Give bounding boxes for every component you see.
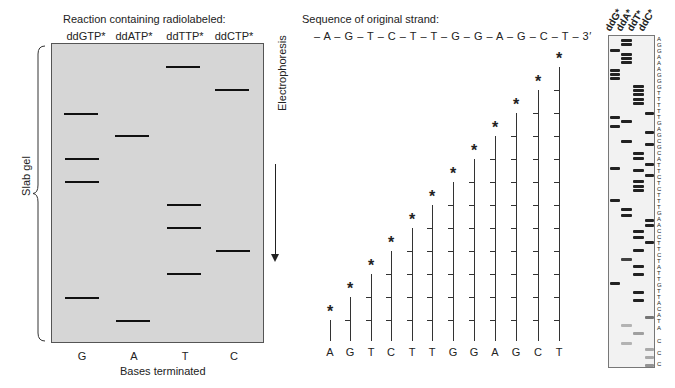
fragment-line-8 xyxy=(474,159,475,341)
fragment-line-4 xyxy=(391,251,392,341)
fragment-line-3 xyxy=(371,274,372,341)
label-star-icon: * xyxy=(471,143,477,159)
fragment-line-10 xyxy=(516,113,517,341)
fragment-label-7: G xyxy=(449,346,458,358)
fragment-label-6: T xyxy=(429,346,436,358)
fragment-line-11 xyxy=(538,90,539,341)
fragment-label-9: A xyxy=(491,346,498,358)
fragment-label-8: G xyxy=(470,346,479,358)
fragment-label-3: T xyxy=(368,346,375,358)
fragment-label-10: G xyxy=(512,346,521,358)
fragment-line-12 xyxy=(559,67,560,341)
fragment-label-4: C xyxy=(387,346,395,358)
fragment-label-5: T xyxy=(409,346,416,358)
autoradiograph xyxy=(608,35,655,368)
fragment-line-2 xyxy=(350,297,351,341)
fragment-line-7 xyxy=(453,182,454,341)
label-star-icon: * xyxy=(368,258,374,274)
label-star-icon: * xyxy=(450,166,456,182)
label-star-icon: * xyxy=(327,304,333,320)
fragment-staircase: * A * G * T * C * T * T * G * G xyxy=(0,0,675,388)
label-star-icon: * xyxy=(409,212,415,228)
label-star-icon: * xyxy=(429,189,435,205)
fragment-line-9 xyxy=(495,136,496,341)
fragment-label-2: G xyxy=(346,346,355,358)
fragment-line-6 xyxy=(432,205,433,341)
label-star-icon: * xyxy=(492,120,498,136)
fragment-line-1 xyxy=(330,320,331,341)
label-star-icon: * xyxy=(535,74,541,90)
fragment-label-11: C xyxy=(534,346,542,358)
label-star-icon: * xyxy=(347,281,353,297)
label-star-icon: * xyxy=(513,97,519,113)
fragment-label-12: T xyxy=(556,346,563,358)
fragment-line-5 xyxy=(412,228,413,341)
fragment-label-1: A xyxy=(326,346,333,358)
label-star-icon: * xyxy=(556,51,562,67)
label-star-icon: * xyxy=(388,235,394,251)
